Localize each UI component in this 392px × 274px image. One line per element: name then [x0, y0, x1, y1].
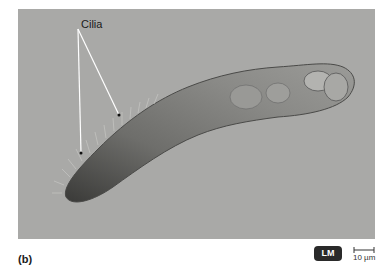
- panel-letter: (b): [18, 253, 32, 265]
- microscopy-type-badge: LM: [314, 246, 342, 261]
- paramecium-illustration: [18, 9, 375, 239]
- scale-bar-label: 10 µm: [353, 253, 375, 262]
- micrograph-paramecium: Cilia: [18, 9, 375, 239]
- cilia-label: Cilia: [81, 18, 102, 30]
